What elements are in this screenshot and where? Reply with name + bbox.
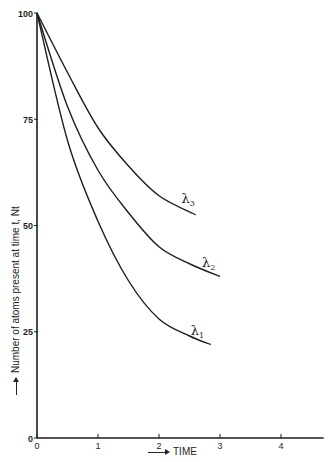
decay-chart: 025507510001234λ3λ2λ1 xyxy=(0,0,334,462)
y-tick-label: 50 xyxy=(23,221,33,231)
curve-label-λ1: λ1 xyxy=(191,323,204,340)
x-axis-title: TIME xyxy=(148,446,197,457)
curve-label-subscript: 2 xyxy=(210,263,215,272)
curve-label-subscript: 3 xyxy=(190,199,195,208)
y-tick-label: 25 xyxy=(23,327,33,337)
x-axis-title-text: TIME xyxy=(173,446,197,457)
x-tick-label: 3 xyxy=(217,441,222,451)
y-tick-label: 100 xyxy=(18,9,33,19)
curve-label-λ3: λ3 xyxy=(182,191,195,208)
y-axis-title-text: Number of atoms present at time t, Nt xyxy=(10,206,21,373)
x-axis-arrow-icon xyxy=(148,452,168,453)
x-tick-label: 1 xyxy=(95,441,100,451)
y-axis-arrow-icon xyxy=(16,379,17,395)
y-axis-title: Number of atoms present at time t, Nt xyxy=(10,206,21,395)
curve-label-subscript: 1 xyxy=(199,331,204,340)
curve-λ2 xyxy=(37,13,220,277)
y-tick-label: 0 xyxy=(28,434,33,444)
x-tick-label: 4 xyxy=(278,441,283,451)
x-tick-label: 0 xyxy=(34,441,39,451)
y-tick-label: 75 xyxy=(23,115,33,125)
curve-label-λ2: λ2 xyxy=(202,255,215,272)
